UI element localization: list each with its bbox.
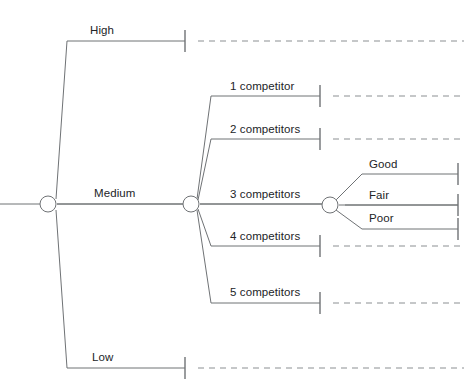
decision-tree-diagram: HighMediumLow1 competitor2 competitors3 … [0,0,476,387]
chance-node-medium-node[interactable] [183,196,199,212]
branch-label-fair: Fair [369,189,389,202]
connector-root-to-low [56,210,67,368]
branch-label-c3: 3 competitors [230,188,300,201]
branch-label-c5: 5 competitors [230,286,300,299]
branch-label-c2: 2 competitors [230,123,300,136]
chance-node-root[interactable] [40,196,56,212]
branch-label-poor: Poor [369,212,394,225]
branch-label-c1: 1 competitor [230,80,294,93]
branch-label-low: Low [92,351,113,364]
connector-three-comp-node-to-poor [336,210,362,229]
connector-root-to-high [56,41,67,199]
connector-three-comp-node-to-good [336,174,362,200]
connector-medium-node-to-c5 [197,210,211,303]
branch-label-c4: 4 competitors [230,230,300,243]
branch-label-good: Good [369,158,398,171]
branch-label-medium: Medium [94,187,136,200]
chance-node-three-comp-node[interactable] [322,197,338,213]
branch-label-high: High [90,24,114,37]
connector-medium-node-to-c2 [198,139,211,200]
